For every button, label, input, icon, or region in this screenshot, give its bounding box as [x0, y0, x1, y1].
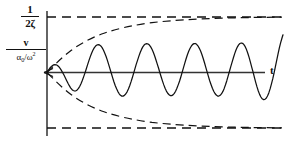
y-axis-numerator: v — [4, 38, 48, 49]
resonance-buildup-figure: 1 2ζ v α0/ω2 t — [0, 0, 288, 146]
upper-envelope-curve — [47, 17, 282, 72]
asymptote-denominator: 2ζ — [14, 17, 46, 29]
asymptote-value-label: 1 2ζ — [14, 4, 46, 29]
y-axis-label: v α0/ω2 — [4, 38, 48, 63]
x-axis-label: t — [270, 64, 274, 76]
y-axis-denominator-exponent: 2 — [33, 51, 36, 57]
y-axis-denominator: α0/ω2 — [4, 50, 48, 63]
response-curve — [47, 35, 283, 100]
y-axis-denominator-omega: /ω — [24, 52, 32, 62]
asymptote-numerator: 1 — [14, 4, 46, 16]
